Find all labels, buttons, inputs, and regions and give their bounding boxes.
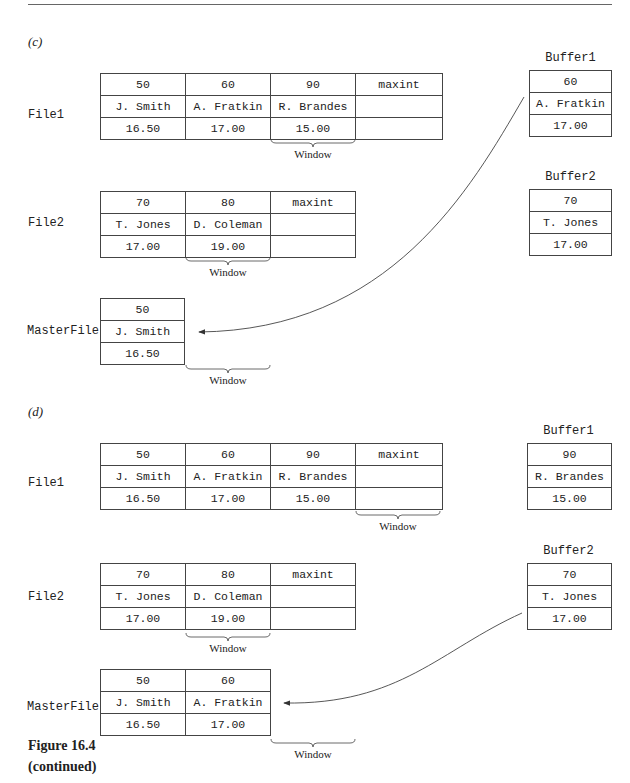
arrow-buffer1-to-masterfile (199, 97, 524, 332)
figure-caption: Figure 16.4 (continued) (28, 735, 96, 777)
figure-number: Figure 16.4 (28, 735, 96, 756)
transfer-arrows (0, 0, 630, 783)
figure-continued: (continued) (28, 756, 96, 777)
arrow-buffer2-to-masterfile (284, 613, 522, 703)
